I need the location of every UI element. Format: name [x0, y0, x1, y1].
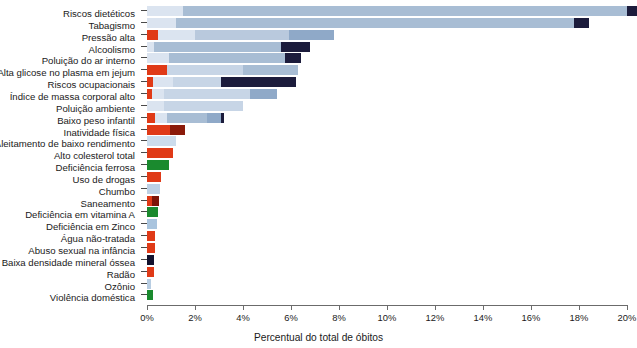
bar-segment	[627, 6, 637, 16]
bar-segment	[147, 231, 155, 241]
category-label: Violência doméstica	[50, 291, 135, 305]
bar-segment	[152, 196, 159, 206]
bar-segment	[147, 6, 183, 16]
y-axis-tick	[141, 188, 147, 189]
y-axis-tick	[141, 129, 147, 130]
bar-segment	[574, 18, 588, 28]
bar-segment	[147, 279, 151, 289]
bar-segment	[147, 290, 153, 300]
y-axis-tick	[141, 294, 147, 295]
bar-segment	[221, 113, 223, 123]
bar-segment	[155, 113, 167, 123]
y-axis-tick	[141, 46, 147, 47]
bar-segment	[147, 267, 154, 277]
bar-row[interactable]	[147, 288, 627, 302]
bar-segment	[167, 65, 243, 75]
y-axis-tick	[141, 93, 147, 94]
x-axis-tick	[147, 305, 148, 310]
bar-segment	[173, 77, 221, 87]
x-axis-tick	[435, 305, 436, 310]
bar-segment	[147, 125, 170, 135]
y-axis-tick	[141, 200, 147, 201]
bar-segment	[147, 148, 173, 158]
x-axis-tick-label: 0%	[140, 312, 154, 323]
x-axis-tick-label: 16%	[522, 312, 541, 323]
y-axis-tick	[141, 235, 147, 236]
bar-segment	[221, 77, 295, 87]
y-axis-tick	[141, 140, 147, 141]
x-axis-tick-label: 4%	[236, 312, 250, 323]
y-axis-tick	[141, 34, 147, 35]
bar-segment	[167, 113, 207, 123]
y-axis-tick	[141, 259, 147, 260]
bar-segment	[164, 101, 243, 111]
bar-segment	[195, 30, 289, 40]
bar-segment	[176, 18, 574, 28]
bar-segment	[147, 160, 169, 170]
bar-segment	[147, 255, 154, 265]
bar-segment	[154, 42, 281, 52]
bar-segment	[170, 125, 186, 135]
bar-segment	[183, 6, 627, 16]
y-axis-tick	[141, 283, 147, 284]
bar-segment	[147, 207, 158, 217]
y-axis-tick	[141, 81, 147, 82]
bar-segment	[147, 18, 176, 28]
y-axis-tick	[141, 105, 147, 106]
x-axis-tick	[531, 305, 532, 310]
x-axis-tick-label: 8%	[332, 312, 346, 323]
bar-segment	[147, 113, 155, 123]
bar-segment	[164, 89, 250, 99]
y-axis-tick	[141, 164, 147, 165]
x-axis-tick-label: 20%	[618, 312, 637, 323]
bar-segment	[147, 30, 158, 40]
y-axis-tick	[141, 152, 147, 153]
y-axis-tick	[141, 176, 147, 177]
bar-segment	[147, 136, 176, 146]
bar-segment	[147, 65, 167, 75]
category-axis: Riscos dietéticosTabagismoPressão altaAl…	[0, 4, 143, 304]
y-axis-tick	[141, 69, 147, 70]
y-axis-tick	[141, 10, 147, 11]
x-axis-tick	[195, 305, 196, 310]
bar-segment	[147, 243, 155, 253]
bar-segment	[147, 42, 154, 52]
x-axis-tick-label: 14%	[474, 312, 493, 323]
y-axis-tick	[141, 247, 147, 248]
x-axis-title: Percentual do total de óbitos	[0, 332, 637, 343]
bar-segment	[153, 77, 173, 87]
bar-segment	[289, 30, 335, 40]
x-axis-tick	[243, 305, 244, 310]
bar-segment	[147, 53, 169, 63]
bar-segment	[158, 30, 195, 40]
x-axis-tick	[579, 305, 580, 310]
bar-segment	[281, 42, 310, 52]
y-axis-tick	[141, 22, 147, 23]
bar-segment	[207, 113, 221, 123]
bar-segment	[250, 89, 276, 99]
bar-segment	[152, 89, 164, 99]
y-axis-tick	[141, 271, 147, 272]
x-axis-tick-label: 2%	[188, 312, 202, 323]
bar-segment	[147, 219, 157, 229]
bar-segment	[147, 172, 161, 182]
x-axis-tick	[483, 305, 484, 310]
x-axis-tick	[339, 305, 340, 310]
y-axis-tick	[141, 223, 147, 224]
x-axis-tick	[627, 305, 628, 310]
bar-segment	[147, 101, 164, 111]
y-axis-tick	[141, 211, 147, 212]
bar-chart: Riscos dietéticosTabagismoPressão altaAl…	[0, 0, 637, 348]
x-axis-tick-label: 18%	[570, 312, 589, 323]
bar-segment	[243, 65, 298, 75]
plot-area	[147, 4, 627, 304]
x-axis-tick	[387, 305, 388, 310]
x-axis-tick	[291, 305, 292, 310]
bar-segment	[147, 184, 160, 194]
y-axis-tick	[141, 57, 147, 58]
x-axis-tick-label: 6%	[284, 312, 298, 323]
x-axis-tick-label: 10%	[378, 312, 397, 323]
bar-segment	[285, 53, 301, 63]
y-axis-tick	[141, 117, 147, 118]
x-axis-tick-label: 12%	[426, 312, 445, 323]
